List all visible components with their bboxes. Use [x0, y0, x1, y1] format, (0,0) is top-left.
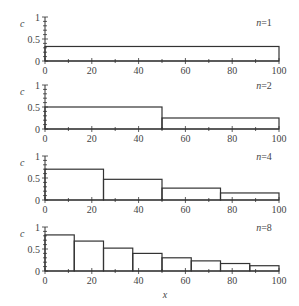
y-tick-label: 0.5	[28, 102, 41, 113]
x-tick-label: 40	[134, 275, 144, 286]
x-tick-label: 20	[87, 65, 97, 76]
panel-label: n=4	[256, 151, 272, 162]
step-bar	[133, 253, 162, 271]
panel-label: n=8	[256, 222, 272, 233]
x-tick-label: 100	[272, 133, 287, 144]
x-tick-label: 40	[134, 65, 144, 76]
x-tick-label: 60	[180, 275, 190, 286]
y-tick-label: 0.5	[28, 34, 41, 45]
y-axis-label: c	[20, 18, 25, 29]
x-tick-label: 80	[227, 204, 237, 215]
panel-label: n=2	[256, 80, 272, 91]
step-bar	[162, 118, 279, 129]
y-axis-label: c	[20, 228, 25, 239]
x-tick-label: 0	[43, 204, 48, 215]
x-tick-label: 20	[87, 133, 97, 144]
step-bar	[45, 46, 279, 61]
x-tick-label: 100	[272, 275, 287, 286]
x-tick-label: 80	[227, 133, 237, 144]
y-tick-label: 0	[35, 266, 40, 277]
x-tick-label: 20	[87, 275, 97, 286]
step-bar	[104, 179, 163, 200]
step-bar	[221, 264, 250, 271]
x-tick-label: 80	[227, 65, 237, 76]
x-tick-label: 60	[180, 133, 190, 144]
x-tick-label: 0	[43, 65, 48, 76]
y-tick-label: 1	[35, 222, 40, 233]
x-tick-label: 60	[180, 204, 190, 215]
x-tick-label: 100	[272, 204, 287, 215]
x-tick-label: 0	[43, 275, 48, 286]
y-axis-label: c	[20, 86, 25, 97]
y-tick-label: 0.5	[28, 173, 41, 184]
y-tick-label: 0	[35, 56, 40, 67]
x-tick-label: 40	[134, 204, 144, 215]
step-chart-figure: 00.51c020406080100n=100.51c020406080100n…	[0, 0, 299, 306]
panel-label: n=1	[256, 17, 272, 28]
step-bar	[45, 235, 74, 271]
step-bar	[45, 107, 162, 129]
x-tick-label: 40	[134, 133, 144, 144]
step-bar	[191, 261, 220, 271]
x-axis-label: x	[162, 289, 168, 300]
step-bar	[221, 193, 280, 200]
step-bar	[104, 248, 133, 271]
x-tick-label: 100	[272, 65, 287, 76]
y-tick-label: 1	[35, 80, 40, 91]
y-axis-label: c	[20, 157, 25, 168]
y-tick-label: 0.5	[28, 244, 41, 255]
x-tick-label: 0	[43, 133, 48, 144]
x-tick-label: 80	[227, 275, 237, 286]
y-tick-label: 0	[35, 195, 40, 206]
x-tick-label: 20	[87, 204, 97, 215]
x-tick-label: 60	[180, 65, 190, 76]
step-bar	[162, 258, 191, 271]
step-bar	[45, 169, 104, 200]
step-bar	[162, 188, 221, 200]
y-tick-label: 1	[35, 12, 40, 23]
step-bar	[74, 241, 103, 271]
y-tick-label: 0	[35, 124, 40, 135]
y-tick-label: 1	[35, 151, 40, 162]
step-bar	[250, 266, 279, 271]
